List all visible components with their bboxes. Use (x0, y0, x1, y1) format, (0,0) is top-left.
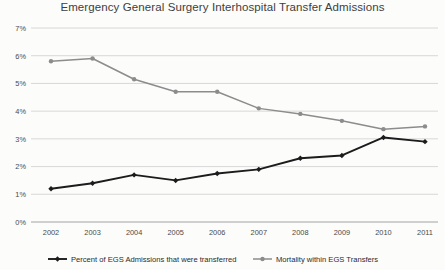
data-point-marker (260, 257, 264, 261)
data-point-marker (55, 256, 60, 261)
chart-plot-area: 0%1%2%3%4%5%6%7% 20022003200420052006200… (0, 0, 445, 270)
y-axis-tick-label: 0% (15, 218, 26, 227)
series-line (51, 58, 425, 129)
x-axis-tick-label: 2003 (84, 228, 100, 237)
series-line (51, 137, 425, 188)
chart-legend: Percent of EGS Admissions that were tran… (48, 255, 378, 264)
legend-label: Percent of EGS Admissions that were tran… (71, 255, 236, 264)
x-axis-tick-labels: 2002200320042005200620072008200920102011 (43, 228, 433, 237)
data-point-marker (173, 90, 177, 94)
y-axis-tick-label: 3% (15, 135, 26, 144)
data-point-marker (257, 106, 261, 110)
data-series (48, 56, 427, 191)
data-point-marker (132, 77, 136, 81)
x-axis-tick-label: 2002 (43, 228, 59, 237)
y-axis-tick-label: 2% (15, 162, 26, 171)
data-point-marker (215, 90, 219, 94)
y-axis-tick-labels: 0%1%2%3%4%5%6%7% (15, 24, 26, 227)
x-axis-tick-label: 2006 (209, 228, 225, 237)
x-axis-tick-label: 2010 (375, 228, 391, 237)
y-axis-tick-label: 1% (15, 190, 26, 199)
y-axis-tick-label: 5% (15, 79, 26, 88)
legend-label: Mortality within EGS Transfers (276, 255, 378, 264)
data-point-marker (48, 186, 53, 191)
data-point-marker (298, 112, 302, 116)
data-point-marker (215, 171, 220, 176)
data-point-marker (49, 59, 53, 63)
data-point-marker (339, 153, 344, 158)
data-point-marker (173, 178, 178, 183)
data-point-marker (381, 127, 385, 131)
x-axis-tick-label: 2011 (417, 228, 433, 237)
y-axis-tick-label: 7% (15, 24, 26, 33)
data-point-marker (422, 139, 427, 144)
x-axis-tick-label: 2007 (251, 228, 267, 237)
x-axis-tick-label: 2009 (334, 228, 350, 237)
data-point-marker (131, 172, 136, 177)
y-axis-tick-label: 6% (15, 52, 26, 61)
data-point-marker (90, 56, 94, 60)
chart-container: Emergency General Surgery Interhospital … (0, 0, 445, 270)
data-point-marker (423, 124, 427, 128)
y-axis-tick-label: 4% (15, 107, 26, 116)
x-axis-tick-label: 2005 (167, 228, 183, 237)
data-point-marker (340, 119, 344, 123)
x-axis-tick-label: 2004 (126, 228, 142, 237)
data-point-marker (298, 156, 303, 161)
data-point-marker (90, 181, 95, 186)
data-point-marker (256, 167, 261, 172)
x-axis-tick-label: 2008 (292, 228, 308, 237)
data-point-marker (381, 135, 386, 140)
